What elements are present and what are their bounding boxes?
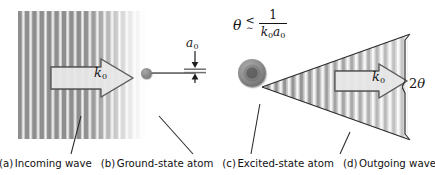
formula-theta-symbol: θ [233,17,241,33]
figure-root: k0 a0 θ < ∼ 1 k0a0 [0,0,435,175]
a0-extent-marker [184,49,206,85]
figure-caption-row: (a)Incoming wave (b)Ground-state atom (c… [0,158,435,169]
incoming-k-subscript: 0 [102,72,107,81]
outgoing-wavevector-arrow [333,62,409,100]
incoming-wavevector-arrow [49,57,135,99]
caption-tag-d: (d) [343,158,357,169]
caption-incoming-wave: (a)Incoming wave [0,158,92,169]
cone-angle-theta-symbol: θ [417,76,425,91]
a0-symbol: a [186,36,193,50]
caption-ground-state-atom: (b)Ground-state atom [101,158,214,169]
a0-size-label: a0 [186,36,199,51]
caption-text-c: Excited-state atom [237,158,334,169]
caption-tag-b: (b) [101,158,115,169]
formula-lesssim-icon: < ∼ [245,17,254,33]
incoming-wavevector-label: k0 [94,65,107,81]
outgoing-k-subscript: 0 [380,76,385,85]
caption-leader-lines [0,104,435,156]
caption-outgoing-wave: (d)Outgoing wave [343,158,435,169]
incoming-k-symbol: k [94,65,102,80]
caption-tag-a: (a) [0,158,13,169]
caption-tag-c: (c) [222,158,236,169]
caption-excited-state-atom: (c)Excited-state atom [222,158,334,169]
outgoing-wavevector-label: k0 [372,69,385,85]
formula-numerator: 1 [264,9,282,22]
formula-approx-tilde: ∼ [246,25,254,32]
outgoing-k-symbol: k [372,69,380,84]
caption-text-d: Outgoing wave [359,158,435,169]
cone-angle-label: 2θ [409,76,425,91]
caption-text-b: Ground-state atom [117,158,214,169]
caption-text-a: Incoming wave [15,158,92,169]
a0-subscript: 0 [194,42,199,51]
